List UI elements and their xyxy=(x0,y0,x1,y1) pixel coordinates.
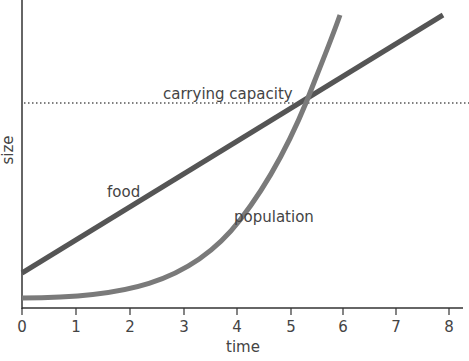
tick-label: 0 xyxy=(17,318,27,336)
tick-label: 2 xyxy=(125,318,135,336)
x-ticks xyxy=(22,308,449,315)
tick-label: 4 xyxy=(232,318,242,336)
food-label: food xyxy=(107,183,140,201)
x-axis-label: time xyxy=(226,338,260,356)
tick-label: 5 xyxy=(286,318,296,336)
tick-label: 6 xyxy=(338,318,348,336)
y-axis-label: size xyxy=(0,135,17,164)
tick-label: 8 xyxy=(444,318,454,336)
tick-label: 1 xyxy=(71,318,81,336)
tick-label: 3 xyxy=(179,318,189,336)
food-line xyxy=(22,15,443,273)
population-label: population xyxy=(234,208,314,226)
carrying-capacity-label: carrying capacity xyxy=(163,85,293,103)
tick-label: 7 xyxy=(391,318,401,336)
population-curve xyxy=(22,15,340,298)
chart: 0 1 2 3 4 5 6 7 8 time size carrying cap… xyxy=(0,0,469,361)
x-tick-labels: 0 1 2 3 4 5 6 7 8 xyxy=(17,318,454,336)
